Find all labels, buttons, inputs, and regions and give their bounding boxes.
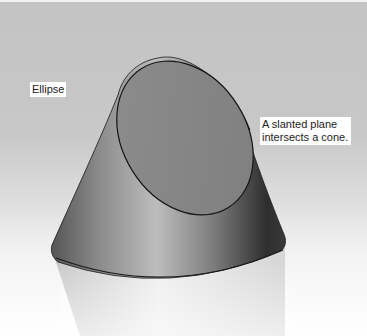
ellipse-label: Ellipse (30, 82, 66, 97)
plane-caption-line-1: A slanted plane (262, 118, 349, 131)
diagram-canvas: Ellipse A slanted plane intersects a con… (0, 0, 367, 336)
ellipse-label-text: Ellipse (32, 83, 64, 95)
plane-caption-line-2: intersects a cone. (262, 131, 349, 144)
plane-caption: A slanted plane intersects a cone. (260, 117, 351, 145)
cone-figure (0, 0, 367, 336)
